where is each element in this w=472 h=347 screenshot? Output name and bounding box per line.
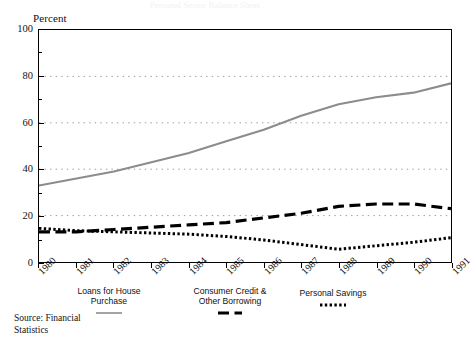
y-tick-minor xyxy=(38,193,42,194)
legend-item: Personal Savings xyxy=(292,289,374,304)
y-tick-major xyxy=(38,29,44,30)
y-tick-major xyxy=(38,123,44,124)
legend-item: Consumer Credit &Other Borrowing xyxy=(188,287,272,312)
legend-swatch-dashed xyxy=(218,308,242,312)
y-tick-minor xyxy=(38,240,42,241)
source-note: Source: Financial Statistics xyxy=(14,313,81,336)
y-tick-major xyxy=(38,169,44,170)
y-tick-major xyxy=(38,76,44,77)
y-tick-minor xyxy=(38,99,42,100)
y-tick-label: 40 xyxy=(5,164,33,174)
legend-swatch-solid xyxy=(96,308,122,312)
y-tick-minor xyxy=(38,52,42,53)
y-tick-label: 100 xyxy=(5,24,33,34)
y-tick-label: 60 xyxy=(5,118,33,128)
y-tick-label: 20 xyxy=(5,211,33,221)
y-tick-label: 0 xyxy=(5,258,33,268)
legend-item: Loans for HousePurchase xyxy=(70,287,148,312)
y-tick-major xyxy=(38,216,44,217)
y-tick-label: 80 xyxy=(5,71,33,81)
y-tick-minor xyxy=(38,146,42,147)
cut-off-title: Personal Sector Balance Sheet xyxy=(150,0,330,9)
legend-label: Purchase xyxy=(70,297,148,307)
legend-label: Personal Savings xyxy=(292,289,374,299)
y-axis-title: Percent xyxy=(33,12,67,24)
legend-label: Other Borrowing xyxy=(188,297,272,307)
data-series-layer xyxy=(39,30,451,262)
legend-swatch-dotted xyxy=(320,300,346,304)
x-tick-label: 1991 xyxy=(450,255,472,277)
plot-area xyxy=(38,29,452,263)
